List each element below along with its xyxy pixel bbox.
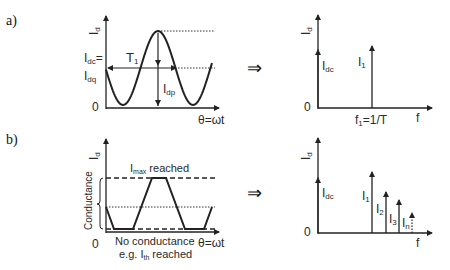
origin-label: 0	[92, 237, 99, 251]
y-axis-label: Id	[87, 152, 102, 160]
h1-label: I1	[358, 55, 366, 70]
harmonic-n-arrow-head	[409, 212, 415, 218]
peak-label: Idp	[163, 82, 176, 97]
y-axis-label: Id	[87, 27, 102, 35]
y-axis-label: Id	[299, 152, 314, 160]
y-axis-label: Id	[299, 27, 314, 35]
harmonic-2-label: I2	[376, 202, 384, 217]
conductance-brace	[97, 178, 103, 229]
x-axis-label: θ=ωt	[198, 236, 225, 250]
dc-label: Idc	[322, 59, 334, 74]
clipped-waveform	[106, 178, 212, 229]
panel-a-waveform: Id Idc= Idq T1 Idp 0 θ=ωt	[84, 16, 225, 127]
idc-label: Idc=	[84, 51, 103, 66]
peak-arrow-head-mid	[155, 60, 161, 66]
panel-b-tag: b)	[6, 132, 18, 148]
panel-a-spectrum: Id Idc I1 0 f1=1/T f	[299, 15, 432, 128]
dc-label: Idc	[322, 186, 334, 201]
harmonic-3-label: I3	[389, 212, 397, 227]
transform-arrow-b: ⇒	[247, 183, 262, 203]
panel-a-tag: a)	[6, 13, 17, 29]
transform-arrow-a: ⇒	[247, 58, 262, 78]
x-axis-label: θ=ωt	[198, 113, 225, 127]
harmonic-1-label: I1	[362, 189, 370, 204]
idq-label: Idq	[84, 69, 96, 84]
max-reached-label: Imax reached	[130, 162, 189, 175]
period-arrow-left-head	[107, 65, 113, 71]
harmonic-n-label: In	[402, 216, 410, 231]
frequency-label: f1=1/T	[355, 113, 388, 128]
conductance-label: Conductance	[83, 171, 94, 230]
panel-b-waveform: Id Conductance Imax reached No conductan…	[83, 139, 225, 261]
x-axis-label: f	[416, 111, 420, 125]
no-conductance-label: No conductance	[115, 235, 195, 247]
period-label: T1	[126, 50, 139, 66]
origin-label: 0	[92, 100, 99, 114]
threshold-reached-label: e.g. Ith reached	[119, 248, 192, 261]
origin-label: 0	[304, 100, 311, 114]
panel-b-spectrum: Id Idc I1 I2 I3 In 0 f	[299, 138, 432, 250]
harmonic-diagram: a) Id Idc= Idq T1 Idp 0 θ=ωt ⇒ Id Idc I1	[0, 0, 450, 270]
peak-arrow-head-down	[155, 100, 161, 106]
x-axis-label: f	[416, 236, 420, 250]
origin-label: 0	[304, 225, 311, 239]
